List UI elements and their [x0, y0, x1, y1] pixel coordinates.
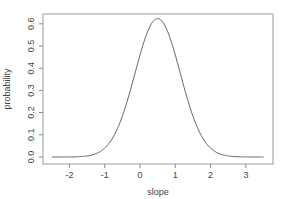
y-tick-label: 0.5	[26, 40, 36, 53]
y-tick-label: 0.2	[26, 106, 36, 119]
y-axis-title: probability	[2, 68, 12, 110]
density-plot: 0.00.10.20.30.40.50.6 -2-10123 slope pro…	[0, 0, 288, 199]
x-tick-label: 0	[137, 170, 142, 180]
x-axis: -2-10123	[65, 164, 248, 180]
y-tick-label: 0.0	[26, 151, 36, 164]
y-tick-label: 0.6	[26, 18, 36, 31]
density-curve	[52, 19, 264, 157]
x-tick-label: 3	[243, 170, 248, 180]
y-tick-label: 0.4	[26, 62, 36, 75]
x-tick-label: 1	[173, 170, 178, 180]
x-tick-label: -2	[65, 170, 73, 180]
plot-box	[43, 14, 273, 164]
y-tick-label: 0.3	[26, 84, 36, 97]
y-axis: 0.00.10.20.30.40.50.6	[26, 18, 43, 164]
x-axis-title: slope	[147, 187, 169, 197]
x-tick-label: -1	[101, 170, 109, 180]
x-tick-label: 2	[208, 170, 213, 180]
y-tick-label: 0.1	[26, 129, 36, 142]
